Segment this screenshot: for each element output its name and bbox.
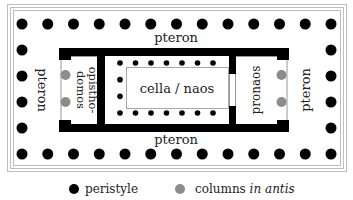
label-pteron-left: pteron <box>35 68 50 112</box>
cella-column <box>117 110 123 116</box>
cella-column <box>148 60 154 66</box>
peristyle-column <box>17 71 28 82</box>
peristyle-column <box>300 19 311 30</box>
cella-column <box>179 60 185 66</box>
peristyle-column <box>120 19 131 30</box>
label-cella: cella / naos <box>140 81 214 96</box>
cella-column <box>210 60 216 66</box>
peristyle-column <box>17 19 28 30</box>
cella-column <box>133 60 139 66</box>
peristyle-column <box>94 149 105 160</box>
peristyle-column <box>68 19 79 30</box>
legend: peristyle columns in antis <box>69 182 295 196</box>
peristyle-column <box>17 123 28 134</box>
peristyle-column <box>223 149 234 160</box>
peristyle-column <box>17 45 28 56</box>
cella-column <box>164 110 170 116</box>
legend-peristyle-swatch <box>69 184 79 194</box>
cella-column <box>133 110 139 116</box>
front-cross-wall-bottom <box>229 106 236 132</box>
legend-in-antis-italic: in antis <box>250 182 295 196</box>
peristyle-column <box>42 19 53 30</box>
legend-in-antis-label: columns in antis <box>195 182 295 196</box>
anta-front-bottom <box>277 120 289 132</box>
in-antis-column-front-1 <box>277 70 287 80</box>
south-wall <box>59 124 289 132</box>
peristyle-column <box>171 149 182 160</box>
legend-in-antis-swatch <box>175 184 185 194</box>
cella-column <box>148 110 154 116</box>
label-pronaos: pronaos <box>249 66 263 115</box>
peristyle-column <box>68 149 79 160</box>
peristyle-column <box>326 149 337 160</box>
label-opisthodomos-2: domos <box>74 71 88 109</box>
label-pteron-top: pteron <box>154 30 198 45</box>
cella-column <box>164 60 170 66</box>
in-antis-column-back-2 <box>61 97 71 107</box>
peristyle-column <box>120 149 131 160</box>
peristyle-column <box>248 149 259 160</box>
temple-plan-diagram: pteron pteron pteron pteron opistho- dom… <box>0 0 353 200</box>
peristyle-column <box>326 45 337 56</box>
cella-column <box>117 60 123 66</box>
cella-column <box>195 110 201 116</box>
peristyle-column <box>145 19 156 30</box>
peristyle-column <box>326 97 337 108</box>
north-wall <box>59 48 289 56</box>
in-antis-column-front-2 <box>277 97 287 107</box>
in-antis-column-back-1 <box>61 70 71 80</box>
peristyle-column <box>274 19 285 30</box>
peristyle-column <box>274 149 285 160</box>
peristyle-column <box>300 149 311 160</box>
peristyle-column <box>326 123 337 134</box>
peristyle-column <box>326 71 337 82</box>
peristyle-column <box>223 19 234 30</box>
cella-column <box>179 110 185 116</box>
label-pteron-bottom: pteron <box>154 132 198 147</box>
peristyle-column <box>145 149 156 160</box>
peristyle-column <box>326 19 337 30</box>
front-cross-wall-top <box>229 48 236 74</box>
peristyle-column <box>171 19 182 30</box>
legend-in-antis-plain: columns <box>195 182 250 196</box>
cella-column <box>117 94 123 100</box>
peristyle-column <box>42 149 53 160</box>
cella-column <box>117 77 123 83</box>
anta-back-bottom <box>59 120 71 132</box>
peristyle-column <box>17 97 28 108</box>
anta-front-top <box>277 48 289 60</box>
peristyle-column <box>197 149 208 160</box>
anta-back-top <box>59 48 71 60</box>
cella-column <box>195 60 201 66</box>
peristyle-column <box>248 19 259 30</box>
cella-column <box>210 110 216 116</box>
legend-peristyle-label: peristyle <box>85 182 138 196</box>
peristyle-column <box>17 149 28 160</box>
peristyle-column <box>197 19 208 30</box>
peristyle-column <box>94 19 105 30</box>
label-pteron-right: pteron <box>298 68 313 112</box>
